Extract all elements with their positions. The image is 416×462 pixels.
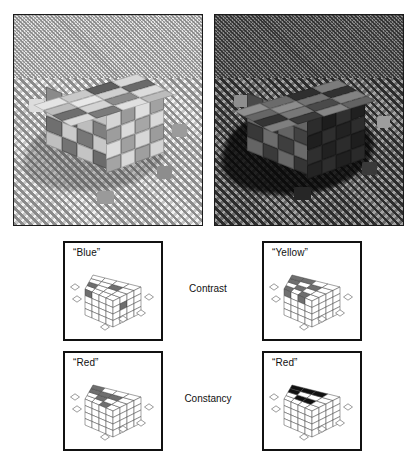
key-loose-chip-0 [71, 284, 80, 290]
key-panel-red-left: “Red” [63, 351, 163, 451]
key-panel-blue: “Blue” [63, 241, 163, 341]
key-loose-chip-2 [145, 294, 154, 300]
key-loose-chip-2 [145, 404, 154, 410]
floor-chip-3 [97, 191, 114, 204]
wireframe-cube-red-right [264, 363, 360, 447]
row-label-constancy: Constancy [158, 393, 258, 404]
photo-shadowed-illumination [214, 14, 404, 226]
photograph-row [0, 0, 416, 232]
photo-neutral-illumination [13, 14, 203, 226]
key-loose-chip-0 [270, 394, 279, 400]
wireframe-cube-blue [65, 253, 161, 337]
key-loose-chip-2 [344, 294, 353, 300]
floor-chip-3 [294, 187, 311, 200]
key-loose-chip-1 [272, 296, 281, 302]
key-loose-chip-0 [270, 284, 279, 290]
key-loose-chip-2 [344, 404, 353, 410]
key-panel-yellow: “Yellow” [262, 241, 362, 341]
key-loose-chip-0 [71, 394, 80, 400]
block-stack-shadowed [245, 65, 365, 177]
floor-chip-1 [172, 124, 187, 137]
block-stack-neutral [44, 59, 164, 171]
row-label-contrast: Contrast [158, 283, 258, 294]
key-loose-chip-1 [73, 406, 82, 412]
key-loose-chip-1 [272, 406, 281, 412]
key-panel-red-right: “Red” [262, 351, 362, 451]
key-loose-chip-1 [73, 296, 82, 302]
wireframe-cube-yellow [264, 253, 360, 337]
wireframe-cube-red-left [65, 363, 161, 447]
floor-chip-1 [377, 116, 390, 129]
